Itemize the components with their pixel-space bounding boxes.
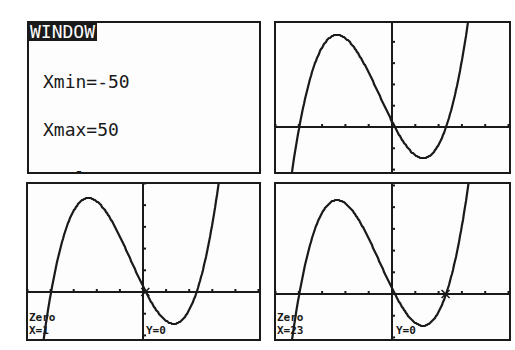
y-readout: Y=0	[146, 325, 166, 336]
x-readout: X=1	[29, 325, 49, 336]
zero-screen-2: Zero X=23 Y=0	[274, 182, 511, 341]
graph-plot	[276, 23, 509, 172]
graph-screen	[274, 21, 511, 174]
zero-plot-2	[276, 184, 509, 339]
zero-plot-1	[28, 184, 259, 339]
window-title: WINDOW	[29, 23, 97, 41]
x-readout: X=23	[277, 325, 304, 336]
y-readout: Y=0	[396, 325, 416, 336]
zero-mode-label: Zero	[29, 312, 56, 323]
zero-mode-label: Zero	[277, 312, 304, 323]
window-settings-list: Xmin=-50 Xmax=50 Xscl=10 Ymin=-10000 Yma…	[43, 41, 162, 174]
setting-xmax: Xmax=50	[43, 122, 162, 138]
setting-xmin: Xmin=-50	[43, 74, 162, 90]
zero-screen-1: Zero X=1 Y=0	[26, 182, 261, 341]
setting-xscl: Xscl=10	[43, 171, 162, 174]
window-settings-screen: WINDOW Xmin=-50 Xmax=50 Xscl=10 Ymin=-10…	[27, 21, 261, 174]
